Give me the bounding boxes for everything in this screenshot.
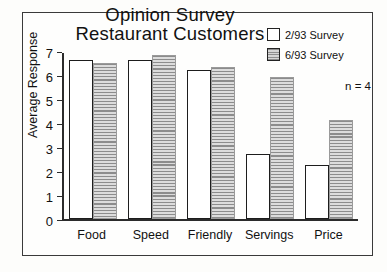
- y-axis-tick: [57, 52, 62, 53]
- bar-group: [64, 53, 123, 219]
- y-axis-tick-label: 2: [46, 166, 53, 181]
- y-axis-tick: [57, 76, 62, 77]
- y-axis-title: Average Response: [26, 32, 40, 138]
- chart-title-block: Opinion Survey Restaurant Customers: [45, 6, 295, 44]
- x-axis-label: Speed: [121, 228, 180, 242]
- y-axis-tick-label: 4: [46, 118, 53, 133]
- bar-servings-series1: [246, 154, 270, 219]
- y-axis-tick: [57, 100, 62, 101]
- plot-area: 01234567: [62, 53, 358, 221]
- bar-group: [181, 53, 240, 219]
- y-axis-tick: [57, 220, 62, 221]
- y-axis-tick-label: 1: [46, 190, 53, 205]
- y-axis-tick: [57, 196, 62, 197]
- chart-subtitle: Restaurant Customers: [45, 25, 295, 44]
- bar-servings-series2: [270, 77, 294, 220]
- x-axis-labels: FoodSpeedFriendlyServingsPrice: [62, 228, 358, 242]
- y-axis-tick-label: 5: [46, 94, 53, 109]
- bar-friendly-series1: [187, 70, 211, 220]
- y-axis-tick: [57, 172, 62, 173]
- bar-group: [240, 53, 299, 219]
- bar-speed-series1: [128, 60, 152, 219]
- y-axis-tick-label: 0: [46, 214, 53, 229]
- bar-speed-series2: [152, 55, 176, 219]
- x-axis-label: Food: [62, 228, 121, 242]
- x-axis-label: Friendly: [180, 228, 239, 242]
- bar-food-series2: [93, 63, 117, 220]
- y-axis-tick: [57, 124, 62, 125]
- bar-food-series1: [69, 60, 93, 219]
- y-axis-tick-label: 7: [46, 46, 53, 61]
- legend-label-series1: 2/93 Survey: [285, 29, 344, 41]
- bar-group: [299, 53, 358, 219]
- bar-group: [122, 53, 181, 219]
- chart-figure: Opinion Survey Restaurant Customers 2/93…: [0, 0, 387, 272]
- y-axis-tick-label: 6: [46, 70, 53, 85]
- bar-friendly-series2: [211, 67, 235, 219]
- white-square-icon: [267, 28, 280, 41]
- x-axis-label: Servings: [240, 228, 299, 242]
- legend-item-series1: 2/93 Survey: [267, 28, 373, 41]
- bar-price-series2: [329, 120, 353, 220]
- bar-groups: [64, 53, 358, 219]
- y-axis-tick: [57, 148, 62, 149]
- bar-price-series1: [305, 165, 329, 220]
- y-axis-tick-label: 3: [46, 142, 53, 157]
- x-axis-label: Price: [299, 228, 358, 242]
